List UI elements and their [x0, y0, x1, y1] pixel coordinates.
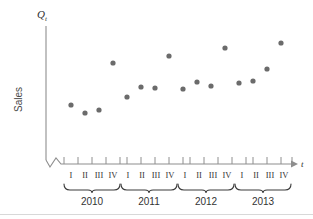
quarter-label: II: [253, 170, 259, 180]
data-point: 2010 I: [68, 102, 73, 107]
quarter-label: II: [196, 170, 202, 180]
y-axis-title: Sales: [13, 87, 24, 112]
year-labels: 2010201120122013: [81, 196, 275, 207]
year-label: 2013: [252, 196, 275, 207]
data-point: 2013 III: [264, 66, 269, 71]
quarter-label: I: [127, 170, 130, 180]
quarter-label: I: [184, 170, 187, 180]
quarter-label: I: [70, 170, 73, 180]
quarter-label: III: [152, 170, 161, 180]
data-point: 2013 I: [236, 80, 241, 85]
year-label: 2011: [138, 196, 160, 207]
data-point: 2010 IV: [110, 60, 115, 65]
data-point: 2011 III: [152, 85, 157, 90]
x-axis-ticks: [64, 157, 292, 164]
year-brace: [178, 184, 234, 193]
year-label: 2010: [81, 196, 104, 207]
data-point: 2010 III: [96, 107, 101, 112]
year-braces: [64, 184, 291, 193]
y-axis-symbol-subscript: t: [45, 15, 48, 23]
quarter-label: III: [95, 170, 104, 180]
data-point: 2011 II: [138, 84, 143, 89]
year-brace: [64, 184, 120, 193]
quarter-label: IV: [280, 170, 290, 180]
quarter-label: III: [266, 170, 275, 180]
x-axis-symbol: t: [301, 159, 304, 169]
data-point: 2012 I: [180, 86, 185, 91]
quarter-label: II: [82, 170, 88, 180]
data-point-series: 2010 I2010 II2010 III2010 IV2011 I2011 I…: [68, 40, 283, 115]
quarterly-sales-scatter-figure: Q t t Sales IIIIIIIVIIIIIIIVIIIIIIIVIIII…: [0, 0, 313, 219]
data-point: 2012 II: [194, 79, 199, 84]
data-point: 2010 II: [82, 110, 87, 115]
quarter-label: I: [241, 170, 244, 180]
data-point: 2013 IV: [278, 40, 283, 45]
quarter-labels: IIIIIIIVIIIIIIIVIIIIIIIVIIIIIIIV: [70, 170, 290, 180]
quarter-label: IV: [166, 170, 176, 180]
data-point: 2012 III: [208, 83, 213, 88]
year-brace: [121, 184, 177, 193]
quarter-label: IV: [109, 170, 119, 180]
quarter-label: III: [209, 170, 218, 180]
year-label: 2012: [195, 196, 218, 207]
chart-canvas: Q t t Sales IIIIIIIVIIIIIIIVIIIIIIIVIIII…: [0, 0, 313, 219]
y-axis-symbol: Q: [37, 8, 45, 20]
data-point: 2013 II: [250, 78, 255, 83]
data-point: 2011 I: [124, 94, 129, 99]
data-point: 2012 IV: [222, 45, 227, 50]
year-brace: [235, 184, 291, 193]
quarter-label: IV: [223, 170, 233, 180]
quarter-label: II: [139, 170, 145, 180]
footer-divider: [0, 214, 313, 215]
data-point: 2011 IV: [166, 53, 171, 58]
